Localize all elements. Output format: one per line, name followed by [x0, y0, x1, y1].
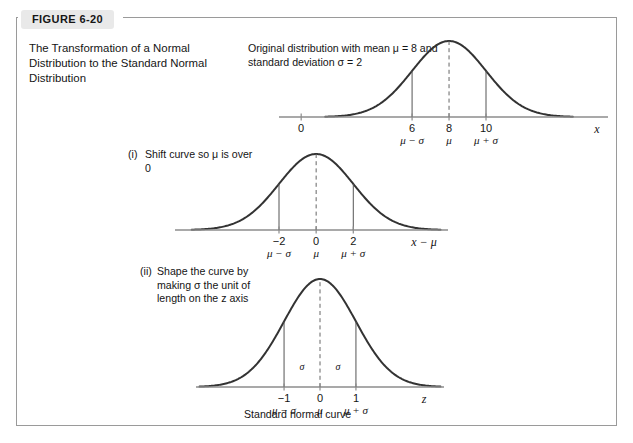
tick-label--1: −1	[278, 392, 291, 404]
original-normal-distribution: 06μ − σ8μ10μ + σx	[279, 41, 608, 146]
axis-name-label: x − μ	[410, 235, 436, 249]
tick-label-8: 8	[446, 122, 452, 134]
tick-sublabel-2: μ + σ	[340, 247, 365, 259]
figure-tab-label: FIGURE 6-20	[21, 10, 114, 29]
tick-label-2: 2	[350, 235, 356, 247]
standard-normal-distribution: −1μ − σ0μ1μ + σσσz	[196, 279, 444, 416]
tick-label--2: −2	[273, 235, 286, 247]
axis-name-label: x	[593, 122, 600, 136]
shifted-normal-distribution: −2μ − σ0μ2μ + σx − μ	[175, 154, 448, 259]
tick-sublabel--1: μ − σ	[271, 404, 296, 416]
sigma-span-label-0: σ	[300, 361, 306, 372]
tick-label-6: 6	[409, 122, 415, 134]
tick-label-0: 0	[317, 392, 323, 404]
tick-sublabel-10: μ + σ	[473, 134, 498, 146]
sigma-span-label-1: σ	[336, 361, 342, 372]
tick-label-10: 10	[480, 122, 492, 134]
tick-sublabel-0: μ	[316, 404, 323, 416]
tick-sublabel-6: μ − σ	[399, 134, 424, 146]
tick-sublabel--2: μ − σ	[266, 247, 291, 259]
tick-sublabel-1: μ + σ	[343, 404, 368, 416]
axis-name-label: z	[421, 392, 427, 406]
tick-sublabel-8: μ	[445, 134, 452, 146]
tick-label-0: 0	[298, 122, 304, 134]
tick-sublabel-0: μ	[312, 247, 319, 259]
tick-label-1: 1	[353, 392, 359, 404]
normal-distribution-plots: 06μ − σ8μ10μ + σx−2μ − σ0μ2μ + σx − μ−1μ…	[0, 0, 633, 443]
tick-label-0: 0	[313, 235, 319, 247]
